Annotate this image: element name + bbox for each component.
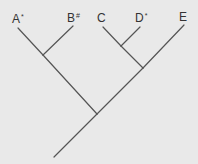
taxon-name: C: [97, 11, 106, 25]
branch-root: [54, 114, 97, 157]
taxon-label-c: C: [97, 12, 107, 24]
branch-cd-clade: [121, 46, 143, 68]
branch-d: [121, 27, 140, 46]
taxon-label-b: B#: [67, 12, 80, 24]
taxon-label-e: E: [179, 11, 188, 23]
taxon-name: A: [12, 12, 20, 26]
branch-b: [43, 26, 73, 55]
taxon-mark: *: [21, 13, 24, 20]
taxon-name: D: [135, 11, 144, 25]
taxon-label-a: A*: [12, 13, 24, 25]
branch-a: [18, 28, 43, 55]
taxon-label-d: D*: [135, 12, 147, 24]
taxon-mark: *: [145, 12, 148, 19]
branch-left-clade: [43, 55, 97, 114]
taxon-name: B: [67, 11, 75, 25]
branch-right-clade: [97, 68, 143, 114]
taxon-mark: #: [76, 12, 80, 19]
taxon-name: E: [179, 10, 187, 24]
branch-c: [103, 27, 121, 46]
branch-e: [143, 25, 184, 68]
